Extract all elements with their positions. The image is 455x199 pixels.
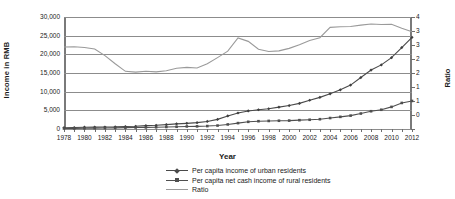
data-point-rural <box>226 123 229 126</box>
x-axis-tick <box>351 129 352 132</box>
x-axis-tick <box>187 129 188 132</box>
x-axis-tick <box>146 129 147 132</box>
data-point-urban <box>257 108 260 111</box>
data-point-urban <box>288 104 291 107</box>
series-plot <box>64 17 412 129</box>
y-axis-right-tick-label: 1 <box>416 83 438 90</box>
x-axis-tick <box>299 129 300 132</box>
y-axis-left-tick-label: 30,000 <box>26 13 60 20</box>
legend-label-ratio: Ratio <box>192 186 208 193</box>
x-axis-tick <box>412 129 413 132</box>
x-axis-tick-label: 2012 <box>399 134 425 141</box>
x-axis-tick <box>310 129 311 132</box>
y-axis-right-tick-label: 1 <box>416 97 438 104</box>
data-point-urban <box>236 111 239 114</box>
x-axis-tick <box>197 129 198 132</box>
y-axis-right-tick-label: 0 <box>416 111 438 118</box>
data-point-rural <box>134 126 137 129</box>
x-axis-tick <box>340 129 341 132</box>
x-axis-tick <box>177 129 178 132</box>
x-axis-title: Year <box>0 152 455 161</box>
data-point-urban <box>195 121 198 124</box>
x-axis-tick <box>320 129 321 132</box>
x-axis-tick <box>218 129 219 132</box>
y-axis-left-tick-label: 10,000 <box>26 88 60 95</box>
x-axis-tick <box>166 129 167 132</box>
data-point-urban <box>277 106 280 109</box>
x-axis-tick <box>248 129 249 132</box>
y-axis-left-tick-label: 5,000 <box>26 106 60 113</box>
data-point-urban <box>308 99 311 102</box>
y-axis-right-title: Ratio <box>443 12 455 56</box>
y-axis-left-tick-label: 25,000 <box>26 32 60 39</box>
data-point-rural <box>267 120 270 123</box>
data-point-urban <box>206 120 209 123</box>
y-axis-left-tick-label: 0 <box>26 125 60 132</box>
data-point-rural <box>288 119 291 122</box>
data-point-rural <box>308 118 311 121</box>
data-point-rural <box>319 118 322 121</box>
data-point-urban <box>298 102 301 105</box>
data-point-rural <box>349 114 352 117</box>
data-point-rural <box>278 119 281 122</box>
x-axis-tick <box>125 129 126 132</box>
legend-marker-line-icon <box>166 185 188 194</box>
x-axis-tick <box>289 129 290 132</box>
x-axis-tick <box>371 129 372 132</box>
data-point-rural <box>63 127 66 130</box>
x-axis-tick <box>115 129 116 132</box>
data-point-rural <box>93 127 96 130</box>
data-point-rural <box>165 126 168 129</box>
data-point-rural <box>390 106 393 109</box>
data-point-urban <box>185 122 188 125</box>
data-point-rural <box>400 102 403 105</box>
x-axis-tick <box>136 129 137 132</box>
legend-item-urban[interactable]: Per capita income of urban residents <box>166 166 331 176</box>
x-axis-tick <box>228 129 229 132</box>
data-point-rural <box>257 120 260 123</box>
data-point-urban <box>226 114 229 117</box>
x-axis-tick <box>238 129 239 132</box>
data-point-rural <box>216 124 219 127</box>
x-axis-tick <box>402 129 403 132</box>
data-point-urban <box>318 96 321 99</box>
x-axis-tick <box>156 129 157 132</box>
data-point-rural <box>360 112 363 115</box>
data-point-rural <box>370 110 373 113</box>
data-point-urban <box>267 107 270 110</box>
data-point-urban <box>247 109 250 112</box>
legend-label-rural: Per capita net cash income of rural resi… <box>192 177 331 184</box>
data-point-rural <box>206 125 209 128</box>
data-point-rural <box>380 108 383 111</box>
x-axis-tick <box>258 129 259 132</box>
y-axis-right-tick-label: 3 <box>416 41 438 48</box>
legend-label-urban: Per capita income of urban residents <box>192 167 306 174</box>
data-point-rural <box>104 127 107 130</box>
data-point-rural <box>339 116 342 119</box>
data-point-rural <box>155 126 158 129</box>
x-axis-tick <box>105 129 106 132</box>
x-axis-tick <box>207 129 208 132</box>
data-point-urban <box>329 92 332 95</box>
data-point-rural <box>83 127 86 130</box>
y-axis-right-tick-label: 2 <box>416 55 438 62</box>
legend-item-ratio[interactable]: Ratio <box>166 185 331 195</box>
chart-legend: Per capita income of urban residents Per… <box>166 166 331 195</box>
x-axis-tick <box>269 129 270 132</box>
x-axis-tick <box>279 129 280 132</box>
x-axis-tick <box>330 129 331 132</box>
data-point-rural <box>237 122 240 125</box>
y-axis-left-tick-label: 20,000 <box>26 50 60 57</box>
y-axis-right-tick-label: 2 <box>416 69 438 76</box>
chart-container: Income in RMB Ratio Year 30,00025,00020,… <box>0 0 455 199</box>
x-axis-tick <box>392 129 393 132</box>
data-point-rural <box>247 121 250 124</box>
y-axis-left-tick-label: 15,000 <box>26 69 60 76</box>
data-point-urban <box>216 118 219 121</box>
x-axis-tick <box>361 129 362 132</box>
data-point-urban <box>175 122 178 125</box>
series-line-ratio <box>64 24 412 72</box>
y-axis-right-tick-label: 4 <box>416 13 438 20</box>
legend-item-rural[interactable]: Per capita net cash income of rural resi… <box>166 176 331 186</box>
legend-marker-square-icon <box>166 176 188 185</box>
